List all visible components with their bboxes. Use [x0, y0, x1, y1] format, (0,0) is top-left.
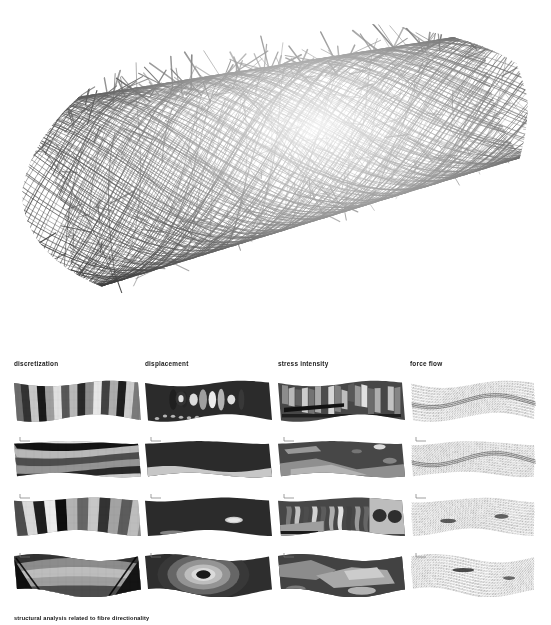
cell-force-flow-row-3[interactable]	[410, 493, 537, 538]
cell-stress-intensity-row-1[interactable]	[278, 378, 405, 423]
cell-displacement-row-4[interactable]	[145, 552, 272, 597]
cell-force-flow-row-1[interactable]	[410, 378, 537, 423]
cell-displacement-row-3[interactable]	[145, 493, 272, 538]
cell-force-flow-row-4[interactable]	[410, 552, 537, 597]
cell-displacement-row-1[interactable]	[145, 378, 272, 423]
cell-displacement-row-2[interactable]	[145, 436, 272, 481]
analysis-thumbnail-grid: discretization displacement stress inten…	[0, 352, 551, 612]
fibre-cylinder-render	[0, 0, 551, 350]
cell-discretization-row-4[interactable]	[14, 552, 141, 597]
cell-discretization-row-1[interactable]	[14, 378, 141, 423]
cell-stress-intensity-row-3[interactable]	[278, 493, 405, 538]
column-header-stress-intensity: stress intensity	[278, 360, 328, 367]
cell-stress-intensity-row-4[interactable]	[278, 552, 405, 597]
column-header-displacement: displacement	[145, 360, 188, 367]
figure-caption: structural analysis related to fibre dir…	[14, 615, 149, 621]
cell-stress-intensity-row-2[interactable]	[278, 436, 405, 481]
column-header-discretization: discretization	[14, 360, 58, 367]
cell-discretization-row-2[interactable]	[14, 436, 141, 481]
cell-force-flow-row-2[interactable]	[410, 436, 537, 481]
column-header-force-flow: force flow	[410, 360, 442, 367]
cell-discretization-row-3[interactable]	[14, 493, 141, 538]
